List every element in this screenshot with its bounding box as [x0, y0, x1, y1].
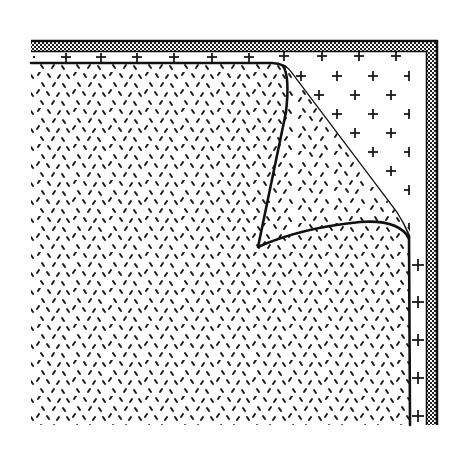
- page-curl-illustration: [0, 0, 459, 460]
- illustration-canvas: [0, 0, 459, 460]
- border-strip-right: [412, 259, 424, 422]
